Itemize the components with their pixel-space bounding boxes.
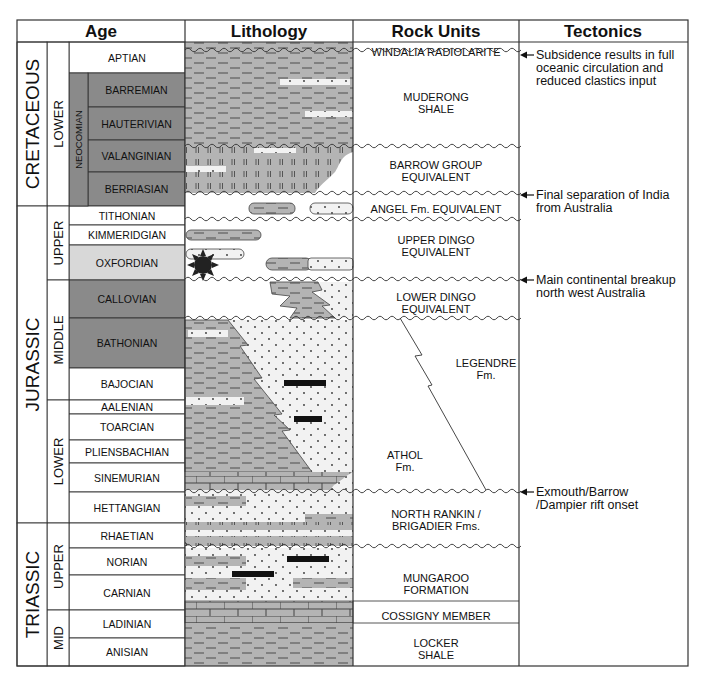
stage-label: TITHONIAN bbox=[99, 210, 156, 222]
stage-label: HETTANGIAN bbox=[94, 502, 161, 514]
stage-cell: BARREMIAN bbox=[88, 73, 185, 107]
coal-bar bbox=[287, 556, 329, 562]
epoch-label: MIDDLE bbox=[51, 315, 66, 364]
stage-label: AALENIAN bbox=[101, 401, 153, 413]
rock-unit: UPPER DINGOEQUIVALENT bbox=[397, 234, 474, 258]
stage-label: APTIAN bbox=[108, 52, 146, 64]
rock-unit-label: LOCKER bbox=[413, 637, 458, 649]
stage-cell: AALENIAN bbox=[69, 400, 185, 414]
stage-cell: BATHONIAN bbox=[69, 318, 185, 368]
tectonic-event: Main continental breakupnorth west Austr… bbox=[520, 273, 676, 300]
epoch-label: UPPER bbox=[51, 544, 66, 589]
tectonic-event-text: Subsidence results in full bbox=[536, 48, 674, 62]
period-cell: CRETACEOUS bbox=[17, 42, 47, 206]
rock-unit-label: Fm. bbox=[477, 369, 496, 381]
rock-unit-label: SHALE bbox=[418, 103, 454, 115]
period-label: TRIASSIC bbox=[22, 551, 43, 639]
rock-unit-label: MUDERONG bbox=[403, 91, 468, 103]
tectonic-event: Final separation of Indiafrom Australia bbox=[520, 188, 669, 215]
stage-label: SINEMURIAN bbox=[94, 472, 160, 484]
arrowhead-icon bbox=[520, 192, 527, 199]
arrowhead-icon bbox=[520, 489, 527, 496]
epoch-label: LOWER bbox=[51, 438, 66, 486]
rock-unit-label: EQUIVALENT bbox=[402, 246, 471, 258]
stage-label: HAUTERIVIAN bbox=[101, 118, 172, 130]
stage-label: VALANGINIAN bbox=[102, 150, 172, 162]
rock-unit: MUNGAROOFORMATION bbox=[403, 572, 469, 596]
muderong-shale-fill bbox=[185, 42, 353, 146]
epoch-cell: UPPER bbox=[47, 523, 69, 610]
neocomian-subgroup: NEOCOMIAN bbox=[69, 73, 88, 206]
stage-cell: SINEMURIAN bbox=[69, 463, 185, 492]
stage-cell: LADINIAN bbox=[69, 610, 185, 638]
rock-unit-label: COSSIGNY MEMBER bbox=[381, 610, 490, 622]
tectonic-event: Subsidence results in fulloceanic circul… bbox=[520, 48, 674, 88]
rock-unit-label: UPPER DINGO bbox=[397, 234, 474, 246]
rock-unit-label: EQUIVALENT bbox=[402, 171, 471, 183]
rock-unit-label: ATHOL bbox=[387, 449, 423, 461]
tectonic-event-text: from Australia bbox=[536, 201, 612, 215]
stage-label: LADINIAN bbox=[103, 618, 151, 630]
stage-label: OXFORDIAN bbox=[96, 257, 158, 269]
stage-label: RHAETIAN bbox=[100, 530, 153, 542]
period-label: JURASSIC bbox=[22, 318, 43, 412]
stage-label: BARREMIAN bbox=[105, 84, 167, 96]
rock-unit: COSSIGNY MEMBER bbox=[381, 610, 490, 622]
stage-cell: CARNIAN bbox=[69, 575, 185, 610]
stage-label: NORIAN bbox=[107, 556, 148, 568]
stage-label: CARNIAN bbox=[103, 587, 150, 599]
epoch-cell: LOWER bbox=[47, 42, 69, 206]
header-rock-units: Rock Units bbox=[392, 22, 481, 41]
stage-cell: CALLOVIAN bbox=[69, 280, 185, 318]
stage-cell: KIMMERIDGIAN bbox=[69, 225, 185, 245]
stage-cell: VALANGINIAN bbox=[88, 140, 185, 172]
stage-label: PLIENSBACHIAN bbox=[85, 446, 169, 458]
stage-cell: HETTANGIAN bbox=[69, 492, 185, 523]
rock-unit: ATHOLFm. bbox=[387, 449, 423, 473]
epoch-cell: UPPER bbox=[47, 206, 69, 280]
stage-cell: APTIAN bbox=[69, 42, 185, 73]
rock-unit-label: LOWER DINGO bbox=[396, 291, 476, 303]
tectonic-event-text: north west Australia bbox=[536, 286, 645, 300]
stratigraphic-chart: APTIANBARREMIANHAUTERIVIANVALANGINIANBER… bbox=[0, 0, 703, 682]
rock-unit-label: BARROW GROUP bbox=[390, 159, 483, 171]
tectonic-event-text: Main continental breakup bbox=[536, 273, 676, 287]
stage-label: TOARCIAN bbox=[100, 421, 154, 433]
stage-cell: TOARCIAN bbox=[69, 414, 185, 440]
rock-unit-label: LEGENDRE bbox=[456, 357, 517, 369]
epoch-cell: MIDDLE bbox=[47, 280, 69, 400]
rock-unit-label: FORMATION bbox=[403, 584, 468, 596]
table-header: Age Lithology Rock Units Tectonics bbox=[85, 22, 642, 41]
rock-unit: LOCKERSHALE bbox=[413, 637, 458, 661]
epoch-label: MID bbox=[51, 626, 66, 650]
tectonic-event: Exmouth/Barrow/Dampier rift onset bbox=[520, 485, 639, 512]
rock-unit-label: BRIGADIER Fms. bbox=[392, 520, 480, 532]
epoch-label: LOWER bbox=[51, 100, 66, 148]
header-tectonics: Tectonics bbox=[564, 22, 642, 41]
tectonic-event-text: oceanic circulation and bbox=[536, 61, 663, 75]
header-lithology: Lithology bbox=[231, 22, 308, 41]
stage-cell: BAJOCIAN bbox=[69, 368, 185, 400]
tectonic-event-text: /Dampier rift onset bbox=[536, 498, 639, 512]
subgroup-label: NEOCOMIAN bbox=[73, 110, 84, 169]
coal-bar bbox=[294, 416, 322, 422]
period-cell: TRIASSIC bbox=[17, 523, 47, 666]
stage-cell: BERRIASIAN bbox=[88, 172, 185, 206]
tectonics-column: Subsidence results in fulloceanic circul… bbox=[520, 48, 676, 512]
arrowhead-icon bbox=[520, 52, 527, 59]
rock-unit-label: NORTH RANKIN / bbox=[391, 508, 482, 520]
age-column: APTIANBARREMIANHAUTERIVIANVALANGINIANBER… bbox=[17, 42, 185, 666]
epoch-cell: LOWER bbox=[47, 400, 69, 523]
stage-cell: ANISIAN bbox=[69, 638, 185, 666]
rock-unit: ANGEL Fm. EQUIVALENT bbox=[371, 203, 502, 215]
rock-unit: MUDERONGSHALE bbox=[403, 91, 468, 115]
stage-label: BATHONIAN bbox=[97, 337, 157, 349]
period-label: CRETACEOUS bbox=[22, 59, 43, 190]
rock-unit: LOWER DINGOEQUIVALENT bbox=[396, 291, 476, 315]
stage-label: CALLOVIAN bbox=[98, 293, 157, 305]
stage-label: BERRIASIAN bbox=[105, 183, 169, 195]
cossigny-limestone-fill bbox=[185, 601, 353, 623]
rock-unit-label: ANGEL Fm. EQUIVALENT bbox=[371, 203, 502, 215]
rock-unit: BARROW GROUPEQUIVALENT bbox=[390, 159, 483, 183]
rock-unit-label: MUNGAROO bbox=[403, 572, 469, 584]
